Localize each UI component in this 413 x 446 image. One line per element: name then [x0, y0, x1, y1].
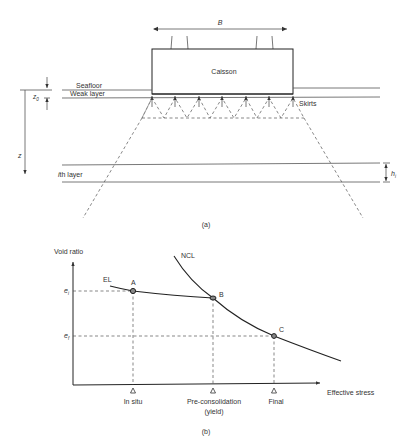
ith-layer-label: ith layer	[58, 171, 83, 179]
ei-label: ei	[64, 287, 70, 296]
in-situ-label: In situ	[124, 398, 143, 405]
weak-layer-label: Weak layer	[70, 90, 106, 98]
el-label: EL	[103, 276, 112, 283]
point-b-label: B	[219, 291, 224, 298]
point-c	[272, 334, 277, 339]
ith-layer-top-line	[62, 163, 380, 165]
point-c-label: C	[279, 326, 284, 333]
guide-lines	[73, 291, 274, 385]
seafloor-label: Seafloor	[76, 82, 103, 89]
layer-thickness-label: hi	[391, 170, 397, 179]
x-axis	[73, 383, 320, 385]
caisson-shafts	[171, 36, 273, 49]
x-axis-label: Effective stress	[327, 389, 375, 396]
layer-thickness-dimension: hi	[383, 163, 397, 182]
panel-a: B Caisson Seafloor Weak layer z0 z	[17, 19, 397, 229]
caisson-label: Caisson	[211, 68, 236, 75]
yield-label: (yield)	[204, 408, 223, 416]
caisson-settlement-diagram: B Caisson Seafloor Weak layer z0 z	[0, 0, 413, 446]
ncl-curve	[174, 256, 341, 361]
panel-a-caption: (a)	[202, 221, 211, 229]
el-curve	[110, 286, 213, 298]
figure-canvas: B Caisson Seafloor Weak layer z0 z	[0, 0, 413, 446]
z0-label: z0	[32, 93, 39, 102]
preconsolidation-marker-icon	[211, 388, 216, 393]
preconsolidation-label: Pre-consolidation	[187, 398, 241, 405]
final-label: Final	[268, 398, 284, 405]
z0-dimension: z0	[32, 77, 50, 110]
panel-b: Void ratio Effective stress EL NCL ei ef…	[54, 248, 375, 436]
panel-b-caption: (b)	[202, 428, 211, 436]
weak-layer-line	[62, 97, 380, 98]
final-marker-icon	[272, 388, 277, 393]
skirt-load-arrows	[83, 94, 363, 218]
ef-label: ef	[64, 332, 70, 341]
y-axis-label: Void ratio	[54, 248, 83, 255]
point-a-label: A	[131, 279, 136, 286]
point-a	[130, 288, 135, 293]
x-markers	[131, 388, 277, 393]
depth-label: z	[17, 152, 22, 159]
ncl-label: NCL	[181, 252, 195, 259]
in-situ-marker-icon	[131, 388, 136, 393]
point-b	[210, 296, 216, 300]
width-label: B	[218, 19, 223, 26]
skirts-label: Skirts	[299, 100, 317, 107]
